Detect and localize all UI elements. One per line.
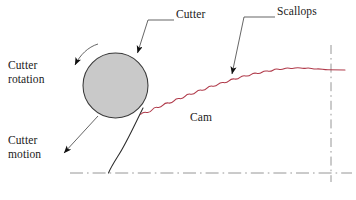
- cutter-cam-scallop-diagram: Cutter rotation Cutter motion Cutter Sca…: [0, 0, 356, 200]
- label-cutter-rotation: Cutter rotation: [8, 58, 45, 86]
- cutter-leader-line: [138, 20, 175, 53]
- label-cam: Cam: [190, 111, 212, 124]
- label-cutter: Cutter: [176, 8, 205, 21]
- cutter-circle: [83, 53, 148, 118]
- label-cutter-motion: Cutter motion: [8, 133, 41, 161]
- cutter-motion-arrow: [64, 116, 98, 153]
- scallops-leader-line: [232, 17, 275, 74]
- diagram-canvas: [0, 0, 356, 200]
- label-scallops: Scallops: [277, 5, 317, 18]
- scallop-surface-curve: [141, 68, 346, 115]
